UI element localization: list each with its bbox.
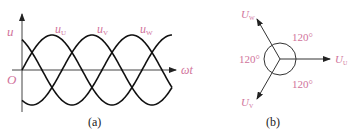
curve-label-u-w: uW xyxy=(140,22,153,37)
y-axis-label: u xyxy=(7,24,14,39)
angle-label-left: 120° xyxy=(239,53,260,65)
phasor-label-u-w: UW xyxy=(241,8,255,21)
angle-label-top: 120° xyxy=(292,31,313,43)
waveform-diagram: u O ωt uU uV uW (a) xyxy=(7,14,193,129)
phasor-u-w xyxy=(257,19,280,59)
x-axis-label: ωt xyxy=(181,63,193,77)
phasor-u-v xyxy=(257,59,280,99)
caption-a: (a) xyxy=(88,115,101,129)
three-phase-figure: u O ωt uU uV uW (a) UW UU UV 120° 120° 1… xyxy=(0,0,354,139)
caption-b: (b) xyxy=(266,115,280,129)
curve-label-u-u: uU xyxy=(55,22,66,37)
phasor-diagram: UW UU UV 120° 120° 120° (b) xyxy=(239,8,348,129)
phasor-label-u-v: UV xyxy=(241,96,254,109)
origin-label: O xyxy=(7,72,17,87)
curve-label-u-v: uV xyxy=(97,22,108,37)
angle-label-bottom: 120° xyxy=(292,78,313,90)
phasor-label-u-u: UU xyxy=(335,53,348,66)
